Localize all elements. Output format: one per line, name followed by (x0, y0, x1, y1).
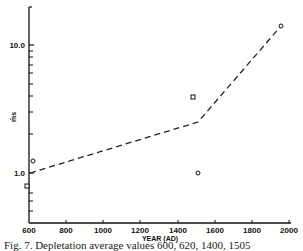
data-point-circle (196, 171, 200, 175)
figure-caption: Fig. 7. Depletation average values 600, … (4, 239, 251, 251)
data-point-square (25, 184, 29, 188)
x-tick-labels: 600 800 1000 1200 1400 1600 1800 2000 (22, 226, 298, 235)
svg-text:1800: 1800 (243, 226, 261, 235)
y-axis-title: m̄s (10, 112, 17, 122)
svg-text:1000: 1000 (94, 226, 112, 235)
svg-text:1400: 1400 (169, 226, 187, 235)
svg-text:1200: 1200 (131, 226, 149, 235)
square-markers (25, 95, 195, 188)
data-point-square (191, 95, 195, 99)
data-point-circle (279, 24, 283, 28)
svg-text:2000: 2000 (280, 226, 298, 235)
svg-text:600: 600 (22, 226, 36, 235)
circle-markers (31, 24, 283, 175)
data-point-circle (31, 159, 35, 163)
svg-text:800: 800 (59, 226, 73, 235)
svg-text:1600: 1600 (206, 226, 224, 235)
y-major-ticks (29, 45, 34, 173)
y-tick-label-10: 10.0 (9, 41, 25, 50)
y-tick-label-1: 1.0 (14, 169, 26, 178)
dashed-fit-line (30, 26, 281, 173)
